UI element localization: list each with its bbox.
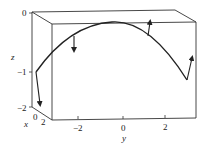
z-tick-neg1: −1 xyxy=(17,67,27,77)
arrow-right-up xyxy=(187,58,192,80)
x-tick-2: 2 xyxy=(41,117,46,127)
vector-arrows xyxy=(36,22,192,104)
y-tick-0: 0 xyxy=(121,123,126,133)
bounding-box xyxy=(32,10,196,120)
3d-curve-plot: 0 −1 −2 z x 0 2 −2 0 2 y xyxy=(0,0,205,151)
z-axis-label: z xyxy=(10,52,15,62)
z-tick-neg2: −2 xyxy=(17,103,27,113)
y-tick-neg2: −2 xyxy=(73,123,83,133)
arrow-left-down xyxy=(36,72,40,104)
space-curve xyxy=(36,22,187,80)
z-tick-0: 0 xyxy=(22,8,27,18)
y-axis-label: y xyxy=(121,133,126,143)
x-axis-label: x xyxy=(23,119,28,129)
x-tick-0: 0 xyxy=(33,112,38,122)
y-tick-2: 2 xyxy=(163,122,168,132)
arrow-mid-up xyxy=(148,22,150,36)
tick-marks xyxy=(29,13,165,119)
